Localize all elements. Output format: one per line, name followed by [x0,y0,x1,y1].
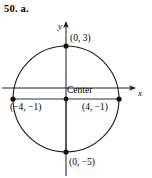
x-axis-label: x [138,89,142,98]
figure-container: 50. a. y x Center (0, 3) (4, −1) (0, −5)… [0,0,152,178]
point-marker-center [64,97,69,102]
point-marker-left [10,96,15,101]
point-label-top: (0, 3) [70,33,91,43]
center-annotation-label: Center [67,85,92,95]
point-label-left: (−4, −1) [10,102,41,112]
point-marker-bottom [63,149,68,154]
point-marker-top [63,43,68,48]
point-label-right: (4, −1) [82,102,108,112]
point-label-bottom: (0, −5) [69,157,95,167]
point-marker-right [116,96,121,101]
y-axis-label: y [58,22,62,31]
